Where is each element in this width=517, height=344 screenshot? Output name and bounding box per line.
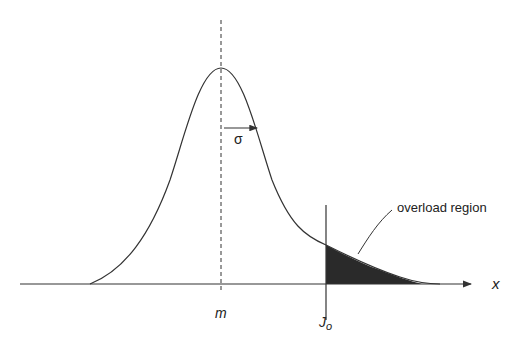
threshold-label-sub: o (326, 320, 332, 332)
distribution-diagram: σ overload region x m Jo (0, 0, 517, 344)
mean-label: m (215, 305, 227, 321)
sigma-label: σ (234, 131, 243, 147)
overload-region-label: overload region (397, 200, 487, 215)
gaussian-curve (90, 68, 440, 284)
x-axis-label: x (491, 275, 500, 292)
overload-region-fill (326, 245, 422, 284)
overload-leader-line (358, 210, 392, 254)
threshold-label: Jo (318, 314, 332, 332)
